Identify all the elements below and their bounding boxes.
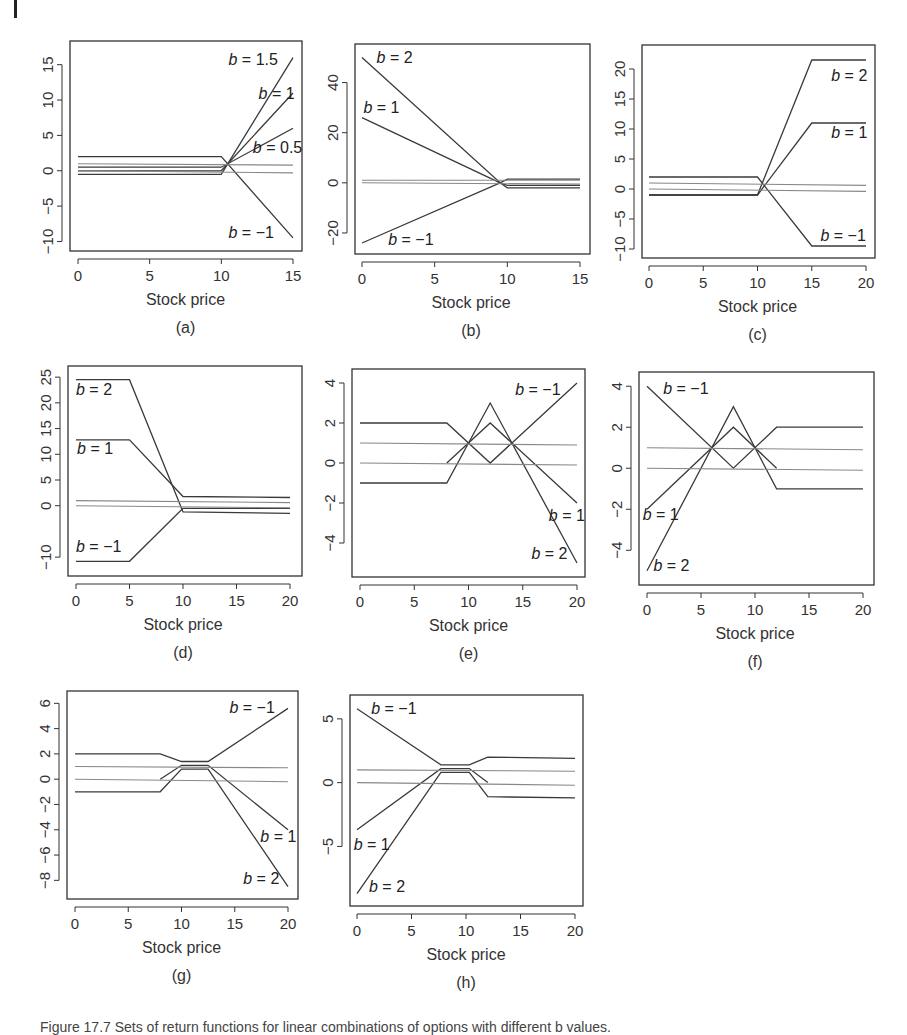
x-tick-label: 15 xyxy=(512,922,529,939)
x-tick-label: 20 xyxy=(567,922,584,939)
series-ref1 xyxy=(357,770,575,771)
x-tick-label: 5 xyxy=(407,922,415,939)
x-tick-label: 0 xyxy=(353,922,361,939)
series-annotation: b = 2 xyxy=(369,878,405,895)
panel-label: (h) xyxy=(456,974,476,991)
y-tick-label: 5 xyxy=(319,715,336,723)
x-axis-label: Stock price xyxy=(426,946,505,963)
series-b-2 xyxy=(357,772,575,893)
y-tick-label: −5 xyxy=(319,838,336,855)
series-annotation: b = −1 xyxy=(371,700,416,717)
series-ref0 xyxy=(357,783,575,786)
x-tick-label: 10 xyxy=(458,922,475,939)
series-b-1 xyxy=(357,709,575,765)
figure-caption: Figure 17.7 Sets of return functions for… xyxy=(40,1019,611,1035)
y-tick-label: 0 xyxy=(319,778,336,786)
series-annotation: b = 1 xyxy=(354,836,390,853)
